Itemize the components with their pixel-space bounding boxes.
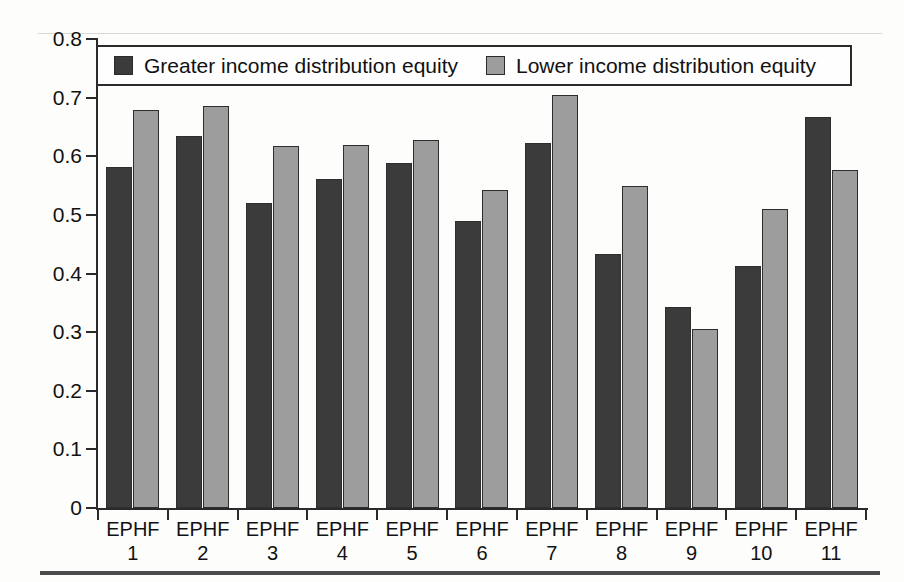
x-axis-label-line1: EPHF: [587, 517, 657, 541]
y-axis-tick-label-text: 0.1: [12, 438, 82, 459]
legend-swatch-icon: [486, 56, 505, 75]
bar: [133, 110, 159, 508]
bar: [413, 140, 439, 508]
y-axis-tick-label: 0.4: [6, 263, 82, 284]
bar: [106, 167, 132, 508]
x-axis-label-line1: EPHF: [517, 517, 587, 541]
x-axis-label-line2: 1: [98, 541, 168, 565]
x-axis-label-line2: 8: [587, 541, 657, 565]
top-divider-rule: [38, 33, 882, 34]
chart-legend: Greater income distribution equityLower …: [96, 45, 852, 86]
x-axis-label: EPHF6: [447, 517, 517, 565]
x-axis-label: EPHF3: [238, 517, 308, 565]
y-axis-tick-label-text: 0: [12, 497, 82, 518]
bar-group: [447, 39, 517, 508]
y-axis-tick-label-text: 0.6: [12, 145, 82, 166]
x-axis-label-line2: 6: [447, 541, 517, 565]
legend-entry-label: Greater income distribution equity: [144, 55, 458, 76]
x-axis-label-line2: 10: [726, 541, 796, 565]
bar: [762, 209, 788, 508]
x-axis-line: [96, 508, 868, 510]
bar-group: [238, 39, 308, 508]
bar: [246, 203, 272, 508]
bar: [482, 190, 508, 508]
x-axis-label-line1: EPHF: [168, 517, 238, 541]
legend-swatch-icon: [114, 56, 133, 75]
x-axis-label: EPHF10: [726, 517, 796, 565]
y-axis-tick-label-text: 0.2: [12, 380, 82, 401]
bar: [343, 145, 369, 508]
bar: [525, 143, 551, 508]
bar-group: [98, 39, 168, 508]
x-axis-label: EPHF2: [168, 517, 238, 565]
bar-group: [657, 39, 727, 508]
chart-figure: 00.10.20.30.40.50.60.70.8 EPHF1EPHF2EPHF…: [0, 0, 904, 582]
y-axis-tick-label: 0.7: [6, 87, 82, 108]
x-axis-label: EPHF11: [796, 517, 866, 565]
legend-entry-label: Lower income distribution equity: [516, 55, 816, 76]
bar: [622, 186, 648, 508]
bar: [386, 163, 412, 508]
x-axis-label-line2: 2: [168, 541, 238, 565]
bar: [552, 95, 578, 508]
x-axis-label-line2: 7: [517, 541, 587, 565]
x-axis-label-line1: EPHF: [726, 517, 796, 541]
x-axis-label-line1: EPHF: [238, 517, 308, 541]
bar-group: [377, 39, 447, 508]
bar-group: [726, 39, 796, 508]
x-axis-label: EPHF5: [377, 517, 447, 565]
y-axis-tick-label: 0.3: [6, 321, 82, 342]
x-axis-label: EPHF1: [98, 517, 168, 565]
plot-area: [98, 39, 866, 508]
bar: [692, 329, 718, 508]
x-axis-label: EPHF8: [587, 517, 657, 565]
bar: [805, 117, 831, 508]
x-axis-label: EPHF9: [657, 517, 727, 565]
bar: [595, 254, 621, 508]
y-axis-tick-label-text: 0.3: [12, 321, 82, 342]
bar: [735, 266, 761, 508]
y-axis-tick-label: 0.2: [6, 380, 82, 401]
x-axis-label-line2: 3: [238, 541, 308, 565]
x-axis-label-line1: EPHF: [447, 517, 517, 541]
y-axis-tick-label: 0.5: [6, 204, 82, 225]
y-axis-tick-label: 0.1: [6, 438, 82, 459]
y-axis-tick-label-text: 0.4: [12, 263, 82, 284]
bar-group: [587, 39, 657, 508]
bar: [665, 307, 691, 508]
y-axis-tick-label: 0: [6, 497, 82, 518]
x-axis-label: EPHF4: [307, 517, 377, 565]
y-axis-tick-label: 0.8: [6, 28, 82, 49]
x-axis-label-line2: 4: [307, 541, 377, 565]
bar: [832, 170, 858, 508]
bar-group: [307, 39, 377, 508]
bar-group: [168, 39, 238, 508]
bar: [273, 146, 299, 508]
x-axis-label-line1: EPHF: [307, 517, 377, 541]
y-axis-tick-label: 0.6: [6, 145, 82, 166]
legend-entry[interactable]: Greater income distribution equity: [114, 55, 458, 76]
x-axis-label-line2: 9: [657, 541, 727, 565]
bar: [455, 221, 481, 508]
bar: [316, 179, 342, 508]
y-axis-tick-label-text: 0.5: [12, 204, 82, 225]
x-axis-label-line1: EPHF: [98, 517, 168, 541]
x-axis-label: EPHF7: [517, 517, 587, 565]
x-axis-label-line1: EPHF: [377, 517, 447, 541]
x-axis-label-line1: EPHF: [796, 517, 866, 541]
x-axis-label-line2: 5: [377, 541, 447, 565]
y-axis-tick-label-text: 0.8: [12, 28, 82, 49]
y-axis-tick-label-text: 0.7: [12, 87, 82, 108]
bar-group: [796, 39, 866, 508]
bar: [203, 106, 229, 508]
x-axis-label-line2: 11: [796, 541, 866, 565]
bar-group: [517, 39, 587, 508]
bottom-divider-rule: [40, 571, 880, 575]
bar: [176, 136, 202, 508]
legend-entry[interactable]: Lower income distribution equity: [486, 55, 816, 76]
x-axis-label-line1: EPHF: [657, 517, 727, 541]
